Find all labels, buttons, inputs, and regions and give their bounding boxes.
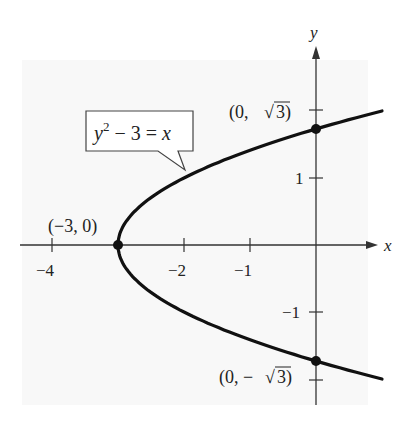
vertex-label: (−3, 0) [48, 216, 97, 237]
svg-text:3): 3) [276, 102, 291, 123]
y-axis-arrow-icon [312, 46, 320, 59]
x-tick-label: −2 [168, 261, 186, 280]
top-intercept-point [311, 124, 321, 134]
chart-figure: x y −4 −2 −1 1 −1 (−3, 0) (0, √ 3) (0, −… [0, 0, 411, 425]
parabola-graph: x y −4 −2 −1 1 −1 (−3, 0) (0, √ 3) (0, −… [0, 0, 411, 425]
y-axis-label: y [308, 23, 318, 42]
sqrt-symbol: √ [264, 102, 274, 122]
svg-text:(0,: (0, [229, 102, 249, 123]
sqrt-symbol: √ [265, 367, 275, 387]
x-axis-arrow-icon [366, 241, 378, 249]
x-tick-label: −1 [234, 261, 252, 280]
svg-text:(0, −: (0, − [219, 367, 253, 388]
bottom-intercept-point [311, 356, 321, 366]
x-axis-label: x [383, 236, 392, 255]
y-tick-label: 1 [295, 169, 304, 188]
vertex-point [113, 240, 123, 250]
x-tick-label: −4 [36, 261, 55, 280]
svg-text:3): 3) [277, 367, 292, 388]
y-tick-label: −1 [282, 303, 300, 322]
